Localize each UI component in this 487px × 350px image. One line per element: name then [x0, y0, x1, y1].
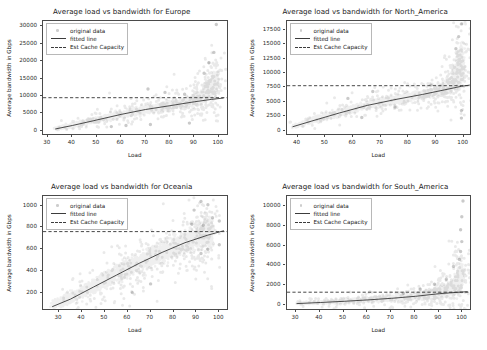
x-axis-label: Load	[42, 152, 228, 158]
legend-item-dashed-line[interactable]: Est Cache Capacity	[50, 43, 124, 51]
x-tick-mark	[297, 135, 298, 137]
legend-item-solid-line[interactable]: fitted line	[50, 210, 124, 218]
y-tick-label: 800	[0, 223, 37, 229]
x-tick-label: 60	[117, 139, 124, 145]
scatter-marker-glyph	[56, 204, 59, 207]
subplot-2: Average load vs bandwidth for North_Amer…	[244, 0, 487, 175]
x-tick-mark	[127, 310, 128, 312]
x-tick-mark	[218, 135, 219, 137]
x-tick-label: 40	[315, 314, 322, 320]
x-tick-mark	[352, 135, 353, 137]
x-tick-label: 50	[321, 139, 328, 145]
y-tick-label: 15000	[0, 75, 37, 81]
y-tick-label: 12500	[244, 55, 281, 61]
legend-label: original data	[314, 202, 349, 210]
subplot-3: Average load vs bandwidth for OceaniaAve…	[0, 175, 244, 350]
y-tick-label: 2000	[244, 281, 281, 287]
subplot-4: Average load vs bandwidth for South_Amer…	[244, 175, 487, 350]
y-tick-label: 8000	[244, 222, 281, 228]
y-tick-label: 400	[0, 267, 37, 273]
legend-item-scatter-marker[interactable]: original data	[50, 202, 124, 210]
y-tick-mark	[40, 292, 42, 293]
x-tick-label: 50	[100, 314, 107, 320]
x-tick-label: 90	[190, 139, 197, 145]
legend-label: original data	[70, 27, 105, 35]
dashed-line-glyph	[295, 47, 310, 48]
x-tick-mark	[193, 135, 194, 137]
y-tick-mark	[283, 205, 285, 206]
legend-item-scatter-marker[interactable]: original data	[294, 202, 368, 210]
x-tick-label: 40	[68, 139, 75, 145]
y-tick-mark	[283, 225, 285, 226]
legend-label: fitted line	[314, 210, 341, 218]
legend-item-solid-line[interactable]: fitted line	[50, 35, 124, 43]
legend: original datafitted lineEst Cache Capaci…	[46, 198, 128, 230]
y-tick-label: 4000	[244, 261, 281, 267]
subplot-1: Average load vs bandwidth for EuropeAver…	[0, 0, 244, 175]
x-tick-mark	[366, 310, 367, 312]
y-tick-label: 25000	[0, 40, 37, 46]
chart-title: Average load vs bandwidth for North_Amer…	[244, 7, 487, 16]
legend-label: Est Cache Capacity	[314, 218, 368, 226]
y-tick-mark	[283, 101, 285, 102]
x-tick-label: 50	[92, 139, 99, 145]
y-tick-mark	[40, 43, 42, 44]
x-tick-label: 80	[169, 314, 176, 320]
x-tick-mark	[295, 310, 296, 312]
dashed-line-glyph	[51, 222, 66, 223]
x-tick-label: 80	[165, 139, 172, 145]
y-tick-label: 10000	[0, 92, 37, 98]
legend-item-scatter-marker[interactable]: original data	[50, 27, 124, 35]
x-tick-label: 100	[457, 139, 468, 145]
x-tick-mark	[47, 135, 48, 137]
legend-label: Est Cache Capacity	[70, 218, 124, 226]
y-tick-mark	[40, 270, 42, 271]
y-tick-mark	[283, 29, 285, 30]
x-tick-label: 100	[213, 314, 224, 320]
legend-item-dashed-line[interactable]: Est Cache Capacity	[294, 43, 368, 51]
y-tick-label: 0	[0, 127, 37, 133]
y-tick-mark	[40, 25, 42, 26]
dashed-line-icon	[294, 43, 311, 51]
legend-label: fitted line	[70, 35, 97, 43]
y-axis-label: Average bandwidth in Gbps	[249, 195, 257, 310]
x-tick-mark	[150, 310, 151, 312]
legend-label: fitted line	[314, 35, 341, 43]
y-tick-label: 7500	[244, 83, 281, 89]
y-tick-mark	[40, 112, 42, 113]
y-tick-label: 10000	[244, 69, 281, 75]
x-tick-label: 70	[387, 314, 394, 320]
legend-item-dashed-line[interactable]: Est Cache Capacity	[294, 218, 368, 226]
y-tick-label: 0	[244, 127, 281, 133]
x-tick-label: 50	[339, 314, 346, 320]
x-axis-label: Load	[286, 152, 472, 158]
y-tick-label: 15000	[244, 40, 281, 46]
x-tick-mark	[407, 135, 408, 137]
x-tick-mark	[120, 135, 121, 137]
legend-item-solid-line[interactable]: fitted line	[294, 210, 368, 218]
chart-title: Average load vs bandwidth for Europe	[0, 7, 244, 16]
solid-line-glyph	[295, 213, 310, 214]
scatter-marker-glyph	[300, 29, 303, 32]
y-tick-label: 5000	[244, 98, 281, 104]
x-tick-mark	[438, 310, 439, 312]
y-tick-label: 6000	[244, 242, 281, 248]
x-axis-label: Load	[42, 327, 228, 333]
legend-item-solid-line[interactable]: fitted line	[294, 35, 368, 43]
y-tick-label: 600	[0, 245, 37, 251]
legend-item-scatter-marker[interactable]: original data	[294, 27, 368, 35]
y-tick-label: 2500	[244, 112, 281, 118]
legend-label: Est Cache Capacity	[314, 43, 368, 51]
solid-line-icon	[294, 210, 311, 218]
x-tick-mark	[435, 135, 436, 137]
original-data-outlier-halo	[56, 44, 228, 131]
x-tick-mark	[319, 310, 320, 312]
x-tick-label: 90	[434, 314, 441, 320]
scatter-marker-icon	[50, 202, 67, 210]
legend-item-dashed-line[interactable]: Est Cache Capacity	[50, 218, 124, 226]
dashed-line-glyph	[295, 222, 310, 223]
dashed-line-icon	[294, 218, 311, 226]
y-tick-mark	[283, 115, 285, 116]
dashed-line-icon	[50, 43, 67, 51]
y-tick-label: 0	[244, 301, 281, 307]
